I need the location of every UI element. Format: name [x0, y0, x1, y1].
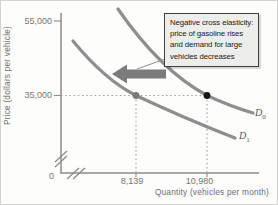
x-tick-label-10980: 10,980	[177, 176, 222, 186]
callout-leader-line	[137, 59, 165, 69]
demand-shift-figure: Price (dollars per vehicle) 55,000 35,00…	[0, 0, 278, 205]
annotation-line: Negative cross elasticity:	[170, 17, 253, 28]
curve-label-d1-sub: 1	[246, 136, 250, 144]
y-axis-title: Price (dollars per vehicle)	[2, 17, 12, 133]
curve-label-d0-sub: 0	[262, 113, 266, 121]
curve-label-d1: D1	[239, 130, 250, 144]
origin-label: 0	[41, 171, 54, 181]
data-point-d1-gray	[133, 92, 140, 99]
data-point-d0-black	[204, 92, 211, 99]
annotation-line: and demand for large	[170, 39, 253, 50]
x-axis-title: Quantity (vehicles per month)	[149, 187, 275, 197]
x-tick-label-8139: 8,139	[112, 176, 152, 186]
annotation-line: vehicles decreases	[170, 51, 253, 62]
y-tick-label-55000: 55,000	[15, 16, 52, 26]
annotation-line: price of gasoline rises	[170, 28, 253, 39]
annotation-callout: Negative cross elasticity: price of gaso…	[164, 13, 259, 67]
left-shift-arrow-icon	[112, 65, 166, 84]
curve-label-d0: D0	[255, 107, 266, 121]
y-tick-label-35000: 35,000	[15, 90, 52, 100]
